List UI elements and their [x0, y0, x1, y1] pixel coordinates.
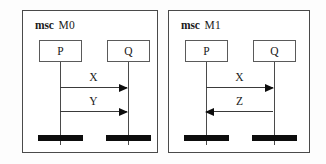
- arrowhead-x: [119, 84, 128, 92]
- terminator-p: [184, 135, 229, 141]
- instance-box-p: P: [185, 40, 228, 62]
- lifeline-q: [128, 62, 129, 145]
- lifeline-p: [60, 62, 61, 145]
- msc-name: M0: [59, 19, 75, 31]
- message-label-x: X: [70, 71, 117, 83]
- msc-panel-m0: mscM0 P Q X Y: [22, 10, 158, 153]
- message-line-x: [206, 87, 273, 88]
- arrowhead-y: [119, 108, 128, 116]
- terminator-p: [38, 135, 83, 141]
- msc-panel-m1: mscM1 P Q X Z: [168, 10, 310, 153]
- instance-label-q: Q: [124, 45, 132, 57]
- instance-box-q: Q: [253, 40, 296, 62]
- arrowhead-z: [205, 108, 214, 116]
- msc-keyword: msc: [35, 19, 54, 31]
- message-line-z: [206, 111, 273, 112]
- lifeline-p: [206, 62, 207, 145]
- instance-label-p: P: [57, 45, 63, 57]
- message-line-x: [60, 87, 127, 88]
- diagram-canvas: mscM0 P Q X Y mscM1 P Q: [0, 0, 326, 164]
- msc-keyword: msc: [181, 19, 200, 31]
- msc-title-m0: mscM0: [35, 19, 75, 31]
- instance-label-q: Q: [270, 45, 278, 57]
- message-label-y: Y: [70, 95, 117, 107]
- terminator-q: [106, 135, 151, 141]
- terminator-q: [252, 135, 297, 141]
- instance-box-p: P: [39, 40, 82, 62]
- arrowhead-x: [265, 84, 274, 92]
- message-label-x: X: [216, 71, 263, 83]
- msc-name: M1: [205, 19, 221, 31]
- message-line-y: [60, 111, 127, 112]
- lifeline-q: [274, 62, 275, 145]
- instance-label-p: P: [203, 45, 209, 57]
- instance-box-q: Q: [107, 40, 150, 62]
- msc-title-m1: mscM1: [181, 19, 221, 31]
- message-label-z: Z: [216, 95, 263, 107]
